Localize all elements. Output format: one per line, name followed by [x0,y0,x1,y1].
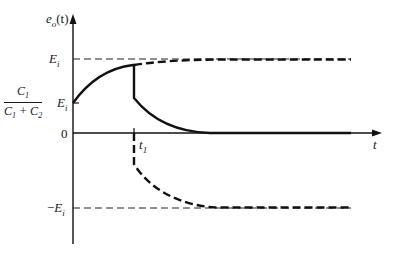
waveform-diagram [0,0,399,259]
den-C: C [4,104,12,118]
ratio-ei-label: Ei [57,96,67,113]
solid-response-curve [73,65,351,133]
fraction-numerator: C1 [4,85,42,103]
dashed-negative-curve [134,133,351,208]
den-plus-C: + C [16,104,38,118]
zero-label: 0 [61,127,68,140]
ei-top-label: Ei [49,52,59,69]
ei-top-i: i [57,59,60,69]
y-axis-label: eo(t) [46,12,69,29]
t1-label: t1 [139,138,147,155]
x-axis-label: t [373,138,377,151]
y-axis-label-arg: (t) [56,11,68,26]
ratio-E: E [57,95,65,110]
ratio-i: i [65,103,68,113]
neg-i: i [62,208,65,218]
x-axis-arrow-icon [372,130,382,137]
num-1: 1 [25,91,29,100]
fraction-denominator: C1 + C2 [4,103,42,120]
y-axis-arrow-icon [70,14,77,24]
num-C: C [17,84,25,98]
ratio-fraction-label: C1 C1 + C2 [4,85,42,121]
dashed-continuation-curve [134,60,351,66]
den-2: 2 [38,112,42,121]
neg-ei-label: −Ei [47,201,65,218]
t1-sub: 1 [143,145,148,155]
ei-top-E: E [49,51,57,66]
axes [70,14,383,244]
